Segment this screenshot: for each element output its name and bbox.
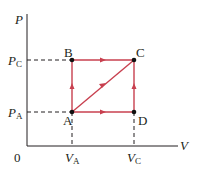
point-d-label: D	[138, 114, 147, 127]
pv-diagram	[0, 0, 197, 169]
p-axis-label: P	[15, 13, 23, 26]
point-b-label: B	[64, 46, 73, 59]
arrow-right-icon	[100, 110, 106, 115]
pc-tick-label: PC	[8, 54, 22, 69]
pa-tick-label: PA	[8, 106, 22, 121]
arrow-up-icon	[132, 83, 137, 89]
arrow-diagonal-icon	[99, 83, 106, 88]
vc-tick-label: VC	[127, 151, 141, 166]
va-tick-label: VA	[65, 151, 79, 166]
origin-label: 0	[14, 151, 21, 164]
point-a-label: A	[63, 114, 72, 127]
v-axis-label: V	[180, 139, 188, 152]
point-c-label: C	[136, 46, 145, 59]
point-d	[132, 110, 137, 115]
arrow-right-icon	[100, 58, 106, 63]
arrow-up-icon	[70, 83, 75, 89]
